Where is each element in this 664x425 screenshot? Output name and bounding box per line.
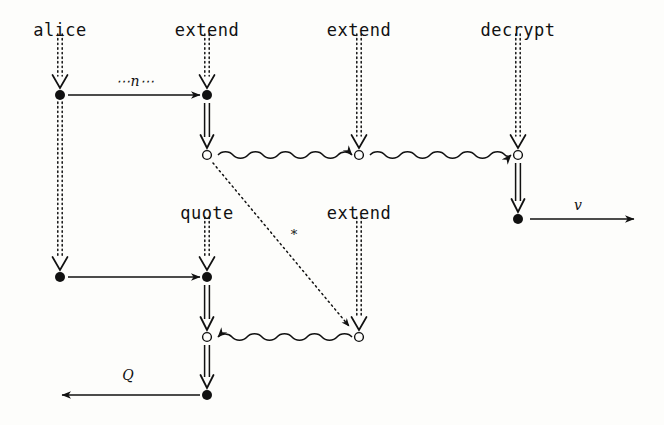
edge-label-n-label: ⋯n⋯ [116,74,153,88]
node-filled-n-quote-r3 [202,272,212,282]
node-label-decrypt-top-4: decrypt [480,22,555,39]
edge-e-quote-down-1 [201,285,214,330]
node-filled-n-alice-r3 [55,272,65,282]
node-label-alice: alice [33,22,87,39]
dotted-wire-arrowhead [53,257,68,270]
edge-e-star-diagonal [213,163,349,326]
edge-e-squig-3-4 [370,152,511,158]
node-filled-n-alice-r1 [55,90,65,100]
dotted-diagonal-arrow [213,163,349,326]
double-wire-arrowhead [512,199,525,212]
node-filled-n-quote-r5 [202,390,212,400]
double-wire-arrowhead [201,135,214,148]
node-label-extend-top-3: extend [327,22,391,39]
double-wire-arrowhead [201,375,214,388]
edge-e-extend2-down [201,103,214,148]
dotted-wire-arrowhead [200,75,215,88]
dotted-wire-arrowhead [352,135,367,148]
edge-e-quote-entry [200,217,215,270]
node-open-n-extend3-r2 [355,151,364,160]
edge-label-q-label: Q [122,368,133,382]
dotted-wire-arrowhead [53,75,68,88]
node-open-n-quote-r4 [203,333,212,342]
edge-e-decrypt-entry [511,34,526,148]
node-open-n-decrypt-r2 [514,151,523,160]
edge-label-v-label: v [574,198,582,212]
edge-e-squig-2-3 [218,152,352,158]
edge-e-alice-entry [53,34,68,88]
edge-e-alice-spine [53,102,68,270]
squiggle-arrow [218,152,352,158]
dotted-wire-arrowhead [352,317,367,330]
edge-e-extend3-entry [352,34,367,148]
squiggle-arrow [218,334,352,340]
edge-e-extend3-mid [352,217,367,330]
node-filled-n-extend-r1 [202,90,212,100]
string-diagram-figure: aliceextendextenddecryptquoteextend ⋯n⋯*… [0,0,664,425]
dotted-wire-arrowhead [511,135,526,148]
edge-label-star-label: * [291,228,298,241]
node-label-quote-mid-2: quote [180,205,234,222]
node-filled-n-decrypt-r3 [513,214,523,224]
edge-e-extend2-entry [200,34,215,88]
edge-e-decrypt-down [512,163,525,212]
node-layer [55,90,523,400]
edge-e-squig-back [218,334,352,340]
node-open-n-extend-r2 [203,151,212,160]
squiggle-arrow [370,152,511,158]
double-wire-arrowhead [201,317,214,330]
dotted-wire-arrowhead [200,257,215,270]
edge-e-quote-down-2 [201,345,214,388]
node-label-extend-mid-3: extend [327,205,391,222]
node-open-n-extend3-r4 [355,333,364,342]
node-label-extend-top-2: extend [175,22,239,39]
